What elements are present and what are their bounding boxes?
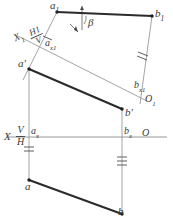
segment-a1-b1 <box>57 12 152 16</box>
label-o1: O1 <box>145 94 156 107</box>
label-bx1: bx1 <box>134 80 145 93</box>
label-ax: ax <box>31 126 39 139</box>
segment-aprime-bprime <box>29 69 122 109</box>
label-b-prime: b′ <box>125 107 133 118</box>
label-beta: β <box>88 17 93 28</box>
label-ax1: ax1 <box>45 38 56 51</box>
label-a-prime: a′ <box>18 58 26 69</box>
label-b: b <box>118 206 124 217</box>
point-b1 <box>150 14 153 17</box>
point-aprime <box>27 67 30 70</box>
label-o: O <box>142 128 149 138</box>
label-a1: a1 <box>50 0 59 14</box>
beta-angle-marker <box>70 6 86 32</box>
point-bprime <box>120 107 123 110</box>
descriptive-geometry-figure: a1 b1 β X1 H1 V ax1 bx1 O1 a′ b′ X V H a… <box>0 0 173 217</box>
label-x: X <box>4 131 11 142</box>
label-b1: b1 <box>155 8 164 22</box>
fraction-v-over-h: V H <box>16 125 25 147</box>
segment-a-b <box>29 180 122 214</box>
label-a: a <box>25 181 31 192</box>
label-bx: bx <box>124 126 132 139</box>
